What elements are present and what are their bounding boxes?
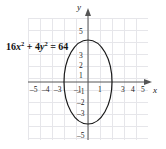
equation-rhs: 64 [58,41,68,52]
x-tick-label-3: 3 [121,86,125,94]
y-tick-label--3: –3 [77,110,85,118]
x-tick-label-4: 4 [131,86,135,94]
y-tick-label-1: 1 [79,72,83,80]
y-axis-arrow [85,8,91,16]
equation-plus: + [27,41,33,52]
x-tick-label--5: –5 [30,86,38,94]
y-tick-label-5: 5 [79,28,83,36]
plot-canvas [0,0,166,149]
equation-exp-x: 2 [21,40,24,47]
y-tick-label--2: –2 [77,99,85,107]
x-axis-arrow [144,79,152,85]
equation-annotation: 16x2 + 4y2 = 64 [6,41,68,52]
x-tick-label-5: 5 [141,86,145,94]
equation-coef-x: 16 [6,41,16,52]
x-tick-label-1: 1 [98,86,102,94]
y-tick-label--1: –1 [77,88,85,96]
x-tick-label--3: –3 [54,86,62,94]
x-axis-label: x [153,86,157,95]
y-tick-label--5: –5 [77,132,85,140]
y-tick-label-2: 2 [79,62,83,70]
graph-figure: 16x2 + 4y2 = 64 x y –5 –4 –3 –1 1 3 4 5 … [0,0,166,149]
equation-exp-y: 2 [44,40,47,47]
y-tick-label-3: 3 [79,52,83,60]
x-tick-label--4: –4 [42,86,50,94]
equation-equals: = [50,41,56,52]
y-axis-label: y [77,3,81,12]
